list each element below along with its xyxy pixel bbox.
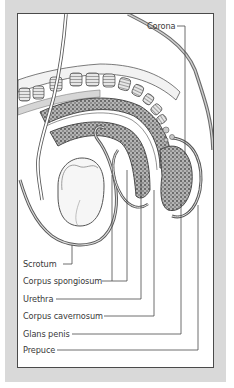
label-urethra: Urethra	[23, 294, 53, 304]
label-corona: Corona	[147, 21, 176, 31]
label-corpus-spongiosum: Corpus spongiosum	[23, 276, 102, 286]
label-scrotum: Scrotum	[23, 259, 57, 269]
label-corpus-cavernosum: Corpus cavernosum	[23, 311, 103, 321]
anatomy-drawing	[18, 14, 213, 245]
label-prepuce: Prepuce	[23, 345, 55, 355]
label-glans-penis: Glans penis	[23, 329, 70, 339]
